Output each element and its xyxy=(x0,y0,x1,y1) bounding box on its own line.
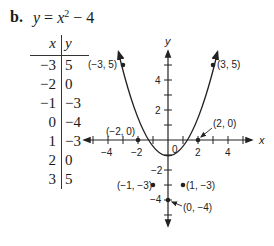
x-tick-label: −2 xyxy=(131,147,143,158)
point-label: (−1, −3) xyxy=(117,180,152,191)
y-tick-label: −2 xyxy=(151,165,163,176)
point-label: (−2, 0) xyxy=(106,126,135,137)
leader-arrow-0-neg4 xyxy=(172,202,182,206)
point-label: (−3, 5) xyxy=(88,59,117,70)
point-label: (1, −3) xyxy=(186,180,215,191)
point-2-0 xyxy=(196,138,201,143)
point-label: (0, −4) xyxy=(183,202,212,213)
point-label: (3, 5) xyxy=(217,59,240,70)
y-axis-label: y xyxy=(164,35,172,47)
point-label: (2, 0) xyxy=(213,118,236,129)
x-tick-label: 2 xyxy=(195,147,201,158)
y-tick-label: 2 xyxy=(155,105,161,116)
x-tick-label: 4 xyxy=(225,147,231,158)
leader-arrow-2-0 xyxy=(201,128,212,137)
y-tick-label: −4 xyxy=(150,194,162,205)
x-tick-label: −4 xyxy=(101,147,113,158)
x-axis-label: x xyxy=(258,134,265,146)
point-0-neg4 xyxy=(166,198,171,203)
parabola-graph: x y −4 −2 2 4 0 4 2 −2 −4 (−3, 5) (3, 5)… xyxy=(0,0,274,246)
point-3-5 xyxy=(211,63,216,68)
point-1-neg3 xyxy=(181,183,186,188)
y-tick-label: 4 xyxy=(155,75,161,86)
point-neg3-5 xyxy=(121,63,126,68)
point-neg2-0 xyxy=(136,138,141,143)
